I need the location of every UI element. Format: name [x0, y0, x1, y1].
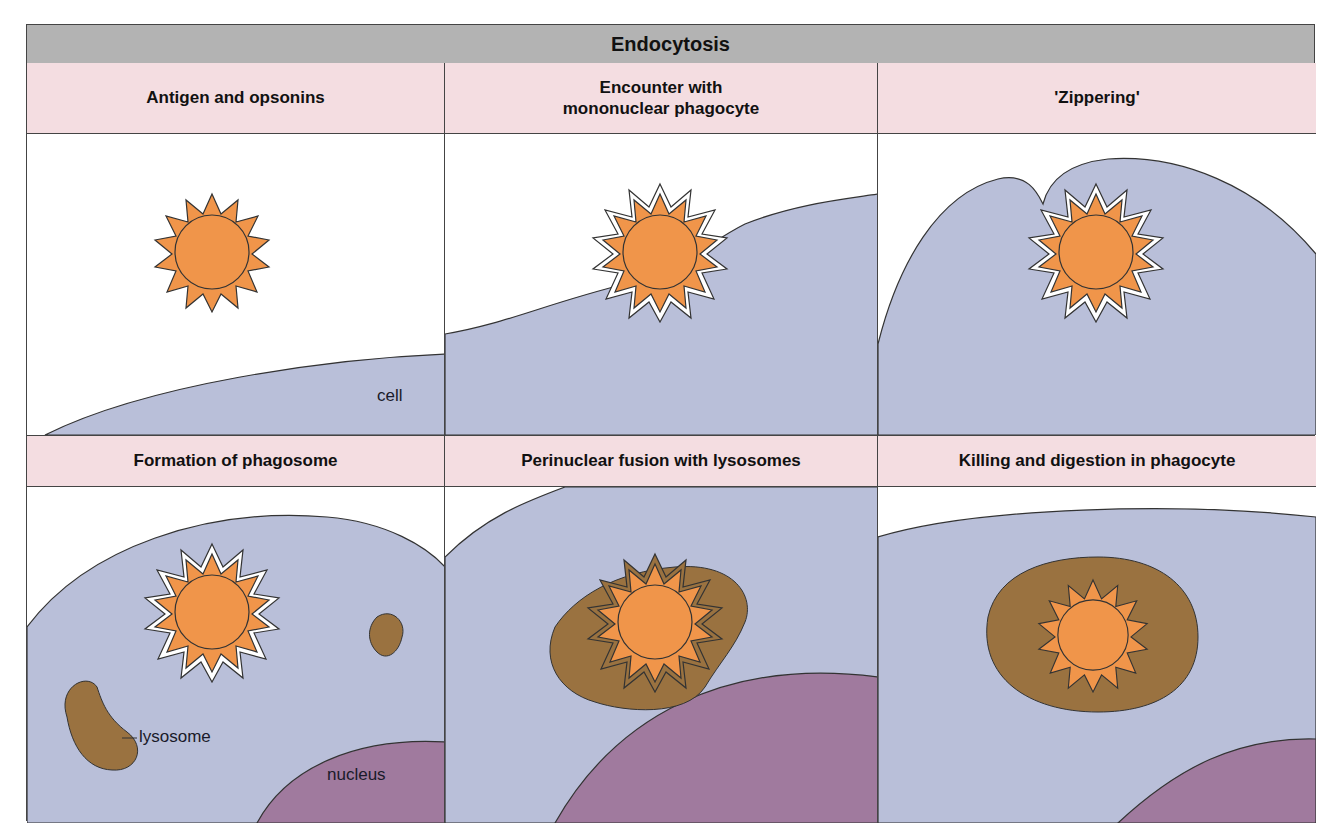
- panel-illustration: [878, 134, 1316, 435]
- panel-illustration: [445, 487, 877, 823]
- panel-title: Antigen and opsonins: [27, 63, 444, 134]
- panel-perinuclear-fusion: Perinuclear fusion with lysosomes: [445, 436, 878, 823]
- panel-zippering: 'Zippering': [878, 63, 1316, 435]
- panel-encounter: Encounter with mononuclear phagocyte: [445, 63, 878, 435]
- panel-title: 'Zippering': [878, 63, 1316, 134]
- panel-illustration: [878, 487, 1316, 823]
- panel-phagosome-formation: Formation of phagosome lysosome nucleus: [27, 436, 445, 823]
- antigen-icon: [155, 194, 269, 312]
- panel-title: Formation of phagosome: [27, 436, 444, 487]
- panel-title: Killing and digestion in phagocyte: [878, 436, 1316, 487]
- row-top: Antigen and opsonins cell Encounter with…: [27, 63, 1314, 435]
- diagram-title: Endocytosis: [27, 25, 1314, 64]
- panel-illustration: [445, 134, 877, 435]
- row-bottom: Formation of phagosome lysosome nucleus: [27, 435, 1314, 823]
- panel-title: Encounter with mononuclear phagocyte: [445, 63, 877, 134]
- panel-title: Perinuclear fusion with lysosomes: [445, 436, 877, 487]
- cell-label: cell: [377, 386, 403, 406]
- panel-illustration: lysosome nucleus: [27, 487, 444, 823]
- nucleus-label: nucleus: [327, 765, 386, 785]
- panel-antigen-opsonins: Antigen and opsonins cell: [27, 63, 445, 435]
- endocytosis-diagram: Endocytosis Antigen and opsonins cell En…: [26, 24, 1315, 821]
- panel-illustration: cell: [27, 134, 444, 435]
- lysosome-label: lysosome: [139, 727, 211, 747]
- panel-killing-digestion: Killing and digestion in phagocyte: [878, 436, 1316, 823]
